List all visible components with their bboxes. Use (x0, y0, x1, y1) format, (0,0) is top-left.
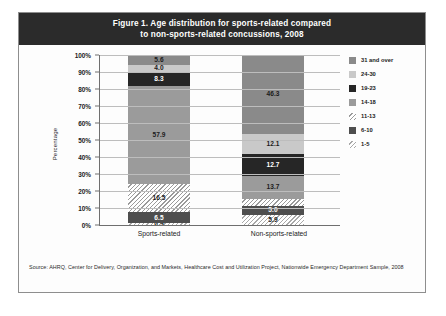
y-axis-tick-mark (95, 72, 99, 73)
legend-item: 14-18 (349, 95, 423, 109)
legend-swatch (349, 57, 356, 64)
gridline (100, 140, 340, 141)
legend-item: 1-5 (349, 137, 423, 151)
y-axis-tick-mark (95, 191, 99, 192)
y-axis-ticks: 0%10%20%30%40%50%60%70%80%90%100% (55, 55, 95, 225)
legend-item: 24-30 (349, 67, 423, 81)
figure-container: Figure 1. Age distribution for sports-re… (18, 12, 426, 293)
x-axis-labels: Sports-relatedNon-sports-related (99, 230, 339, 244)
legend-item: 19-23 (349, 81, 423, 95)
bar-segment: 57.9 (128, 86, 190, 184)
y-axis-tick-label: 90% (78, 69, 91, 76)
y-axis-tick-label: 70% (78, 103, 91, 110)
y-axis-tick-mark (95, 106, 99, 107)
legend-item: 11-13 (349, 109, 423, 123)
gridline (100, 72, 340, 73)
chart-legend: 31 and over24-3019-2314-1811-136-101-5 (349, 53, 423, 151)
legend-item: 31 and over (349, 53, 423, 67)
bar-segment-value: 6.5 (154, 215, 163, 222)
bar-segment: 5.9 (242, 215, 304, 225)
legend-swatch (349, 71, 356, 78)
legend-swatch (349, 127, 356, 134)
bar-segment-value: 4.0 (154, 65, 163, 72)
y-axis-tick-mark (95, 225, 99, 226)
legend-swatch (349, 85, 356, 92)
bar-segment: 13.7 (242, 176, 304, 199)
bar-segment: 46.3 (242, 55, 304, 134)
legend-label: 24-30 (361, 71, 376, 77)
y-axis-tick-label: 10% (78, 205, 91, 212)
y-axis-tick-mark (95, 208, 99, 209)
y-axis-tick-label: 100% (75, 52, 91, 59)
gridline (100, 191, 340, 192)
bar-segment-value: 5.9 (268, 217, 277, 224)
bar-segment: 8.3 (128, 72, 190, 86)
legend-label: 19-23 (361, 85, 376, 91)
y-axis-tick-mark (95, 157, 99, 158)
legend-item: 6-10 (349, 123, 423, 137)
legend-label: 11-13 (361, 113, 376, 119)
bar-segment-value: 12.1 (266, 141, 279, 148)
y-axis-tick-label: 30% (78, 171, 91, 178)
legend-label: 31 and over (361, 57, 393, 63)
bar-segment: 4.0 (128, 65, 190, 72)
plot-grid: 0.96.516.557.98.34.05.6 5.95.013.712.712… (99, 55, 340, 226)
gridline (100, 208, 340, 209)
y-axis-tick-mark (95, 55, 99, 56)
gridline (100, 157, 340, 158)
y-axis-tick-label: 40% (78, 154, 91, 161)
legend-swatch (349, 99, 356, 106)
legend-label: 1-5 (361, 141, 369, 147)
bar-segment: 6.5 (128, 212, 190, 223)
legend-swatch (349, 113, 356, 120)
gridline (100, 55, 340, 56)
x-axis-label: Non-sports-related (219, 230, 339, 237)
figure-title-line-1: Figure 1. Age distribution for sports-re… (113, 18, 331, 29)
gridline (100, 89, 340, 90)
bar-segment-value: 5.6 (154, 57, 163, 64)
bar-segment: 5.6 (128, 56, 190, 66)
y-axis-tick-mark (95, 140, 99, 141)
bar-segment-value: 0.9 (154, 223, 163, 225)
bar-segment (242, 199, 304, 206)
x-axis-label: Sports-related (99, 230, 219, 237)
legend-swatch (349, 141, 356, 148)
y-axis-tick-label: 20% (78, 188, 91, 195)
bar-segment-value: 57.9 (152, 132, 165, 139)
gridline (100, 123, 340, 124)
y-axis-tick-label: 60% (78, 120, 91, 127)
y-axis-tick-label: 50% (78, 137, 91, 144)
bar-segment-value: 46.3 (266, 91, 279, 98)
bar-segment-value: 8.3 (154, 76, 163, 83)
y-axis-tick-mark (95, 123, 99, 124)
bar-segment-value: 16.5 (152, 195, 165, 202)
y-axis-tick-label: 80% (78, 86, 91, 93)
legend-label: 14-18 (361, 99, 376, 105)
bar-segment: 12.1 (242, 134, 304, 155)
gridline (100, 106, 340, 107)
bar-segment-value: 12.7 (266, 162, 279, 169)
y-axis-tick-mark (95, 89, 99, 90)
y-axis-tick-mark (95, 174, 99, 175)
bar-segment: 0.9 (128, 223, 190, 225)
source-note: Source: AHRQ, Center for Delivery, Organ… (29, 263, 417, 271)
figure-title-bar: Figure 1. Age distribution for sports-re… (19, 13, 425, 45)
legend-label: 6-10 (361, 127, 373, 133)
bar-segment-value: 13.7 (266, 184, 279, 191)
gridline (100, 174, 340, 175)
y-axis-tick-label: 0% (82, 222, 91, 229)
figure-title-line-2: to non-sports-related concussions, 2008 (140, 29, 303, 40)
